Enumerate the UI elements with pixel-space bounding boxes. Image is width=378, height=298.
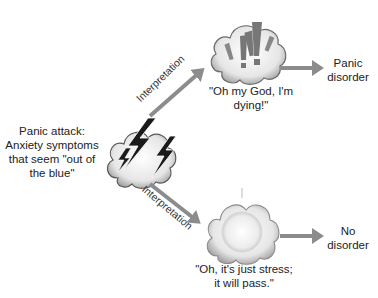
upper-quote-line1: "Oh my God, I'm xyxy=(196,84,306,98)
upper-outcome-line2: disorder xyxy=(318,70,378,84)
trigger-label-line2: Anxiety symptoms xyxy=(2,138,102,152)
lower-quote-line1: "Oh, it's just stress; xyxy=(182,262,306,276)
lower-outcome-line1: No xyxy=(318,224,378,238)
lower-outcome-label: No disorder xyxy=(318,224,378,252)
calm-sun-cloud-icon xyxy=(207,188,279,268)
trigger-label-line3: that seem "out of xyxy=(2,152,102,166)
trigger-label: Panic attack: Anxiety symptoms that seem… xyxy=(2,124,102,180)
upper-outcome-label: Panic disorder xyxy=(318,56,378,84)
upper-outcome-line1: Panic xyxy=(318,56,378,70)
trigger-label-line1: Panic attack: xyxy=(2,124,102,138)
lightning-cloud-icon xyxy=(107,118,176,188)
upper-thought-quote: "Oh my God, I'm dying!" xyxy=(196,84,306,112)
lower-thought-quote: "Oh, it's just stress; it will pass." xyxy=(182,262,306,290)
exclamation-cloud-icon xyxy=(211,22,286,84)
trigger-label-line4: the blue" xyxy=(2,166,102,180)
upper-quote-line2: dying!" xyxy=(196,98,306,112)
lower-outcome-line2: disorder xyxy=(318,238,378,252)
lower-quote-line2: it will pass." xyxy=(182,276,306,290)
